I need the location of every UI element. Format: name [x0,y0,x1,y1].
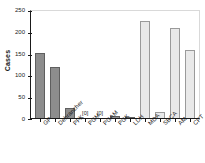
x-axis-tick-label: PGK [117,122,121,126]
bar-slot [108,11,123,118]
bar-slot: [0] [93,11,108,118]
bar-slot [182,11,197,118]
bar [35,53,45,118]
y-axis-tick-label: 250 [15,7,25,13]
x-axis-tick-labels: GPDebrancherPFKPGMPGAMPGKLDHMDASBCAAMCPT [30,122,200,163]
bar [50,67,60,118]
bar [140,21,150,118]
bar [170,28,180,118]
x-axis-tick-label: MDA [147,122,151,126]
x-axis-tick-label: PFK [72,122,76,126]
y-axis-tick-mark [28,11,32,12]
bar-slot [33,11,48,118]
x-axis-tick-label: GP [42,122,46,126]
bar [185,50,195,118]
plot-area: [0][0] [30,10,200,119]
bar-slot [137,11,152,118]
x-axis-tick-label: Debrancher [57,122,61,126]
y-axis-tick-mark [28,98,32,99]
y-axis-tick-mark [28,33,32,34]
x-axis-tick-label: SBCA [162,122,166,126]
x-axis-tick-label: CPT [192,122,196,126]
bar-slot [48,11,63,118]
y-axis-tick-labels: 050100150200250 [10,10,27,119]
bar-chart: Cases 050100150200250 [0][0] GPDebranche… [0,0,205,163]
y-axis-tick-mark [28,55,32,56]
bar-slot [152,11,167,118]
x-axis-tick-label: PGM [87,122,91,126]
bar-slot [122,11,137,118]
bar-slot [167,11,182,118]
x-axis-tick-label: LDH [132,122,136,126]
x-axis-tick-label: AM [177,122,181,126]
y-axis-tick-label: 150 [15,51,25,57]
y-axis-tick-mark [28,76,32,77]
x-axis-tick-label: PGAM [102,122,106,126]
y-axis-tick-label: 200 [15,29,25,35]
y-axis-tick-label: 0 [22,116,25,122]
y-axis-tick-label: 50 [18,94,25,100]
y-axis-tick-label: 100 [15,72,25,78]
bar-series: [0][0] [31,11,199,118]
